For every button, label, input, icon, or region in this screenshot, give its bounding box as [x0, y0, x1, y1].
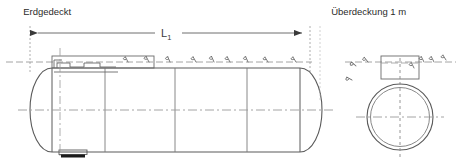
- support-base-block: [61, 155, 85, 158]
- technical-drawing-canvas: Erdgedeckt Überdeckung 1 m L1: [0, 0, 458, 167]
- label-erdgedeckt: Erdgedeckt: [10, 6, 79, 17]
- drawing-background: [0, 0, 458, 167]
- label-ueberdeckung: Überdeckung 1 m: [318, 6, 414, 17]
